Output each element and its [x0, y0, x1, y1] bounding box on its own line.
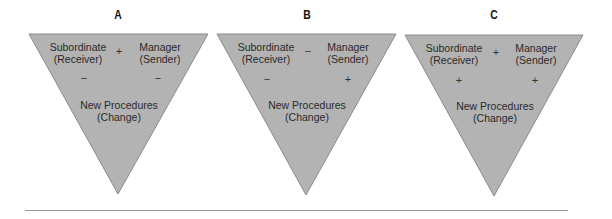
sender-text: (Sender) — [322, 53, 374, 65]
panel-label-a: A — [106, 7, 130, 22]
panel-c: C Subordinate (Receiver) + Manager (Send… — [400, 0, 612, 219]
receiver-text: (Receiver) — [420, 54, 488, 66]
subordinate-text: Subordinate — [232, 41, 300, 53]
sender-text: (Sender) — [510, 54, 562, 66]
manager-label: Manager (Sender) — [510, 42, 562, 66]
panel-a: A Subordinate (Receiver) + Manager (Send… — [0, 0, 212, 219]
manager-text: Manager — [134, 41, 186, 53]
change-label: New Procedures (Change) — [262, 99, 352, 123]
sign-mgr-change: + — [342, 73, 354, 85]
subordinate-text: Subordinate — [420, 42, 488, 54]
sign-sub-mgr: + — [113, 45, 125, 57]
manager-text: Manager — [322, 41, 374, 53]
new-procedures-text: New Procedures — [74, 99, 164, 111]
sign-sub-mgr: − — [302, 45, 314, 57]
manager-label: Manager (Sender) — [322, 41, 374, 65]
change-text: (Change) — [74, 111, 164, 123]
new-procedures-text: New Procedures — [450, 100, 540, 112]
panel-b: B Subordinate (Receiver) − Manager (Send… — [200, 0, 412, 219]
sign-sub-mgr: + — [490, 46, 502, 58]
receiver-text: (Receiver) — [44, 53, 112, 65]
sign-sub-change: − — [261, 73, 273, 85]
sign-mgr-change: + — [529, 74, 541, 86]
sign-sub-change: + — [453, 74, 465, 86]
subordinate-label: Subordinate (Receiver) — [232, 41, 300, 65]
subordinate-label: Subordinate (Receiver) — [44, 41, 112, 65]
change-text: (Change) — [450, 112, 540, 124]
new-procedures-text: New Procedures — [262, 99, 352, 111]
subordinate-text: Subordinate — [44, 41, 112, 53]
change-label: New Procedures (Change) — [450, 100, 540, 124]
manager-label: Manager (Sender) — [134, 41, 186, 65]
receiver-text: (Receiver) — [232, 53, 300, 65]
bottom-rule — [25, 210, 568, 211]
subordinate-label: Subordinate (Receiver) — [420, 42, 488, 66]
manager-text: Manager — [510, 42, 562, 54]
change-label: New Procedures (Change) — [74, 99, 164, 123]
panel-label-c: C — [482, 7, 506, 22]
sign-sub-change: − — [78, 72, 90, 84]
sign-mgr-change: − — [152, 72, 164, 84]
change-text: (Change) — [262, 111, 352, 123]
panel-label-b: B — [295, 7, 319, 22]
sender-text: (Sender) — [134, 53, 186, 65]
